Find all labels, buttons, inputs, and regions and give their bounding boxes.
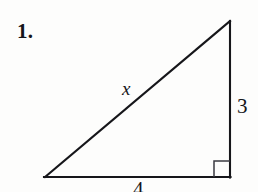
- right-angle-marker-icon: [214, 161, 230, 177]
- triangle-strokes: [44, 21, 231, 178]
- figure-container: 1. x 3 4: [0, 0, 258, 192]
- problem-number-label: 1.: [17, 21, 33, 42]
- base-leg-length-label: 4: [133, 179, 144, 192]
- hypotenuse-length-label: x: [122, 79, 130, 98]
- vertical-leg-length-label: 3: [237, 96, 248, 117]
- hypotenuse-line: [45, 21, 230, 177]
